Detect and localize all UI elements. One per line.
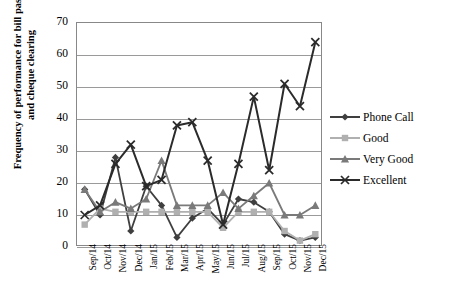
data-point-marker [158, 209, 164, 215]
legend-item-phone-call[interactable]: Phone Call [330, 106, 460, 127]
legend-swatch-square-icon [330, 132, 360, 144]
legend-label: Very Good [363, 153, 413, 165]
y-axis-tick-label: 10 [8, 208, 68, 220]
series-layer [77, 23, 323, 247]
x-axis-tick-label: Sep/15 [272, 244, 282, 296]
data-point-marker [341, 154, 349, 162]
legend-label: Good [363, 132, 389, 144]
data-point-marker [266, 209, 272, 215]
data-point-marker [127, 227, 134, 234]
x-axis-tick-label: Jul/15 [241, 244, 251, 296]
data-point-marker [341, 176, 349, 184]
y-axis-tick-label: 50 [8, 80, 68, 92]
series-line [85, 157, 316, 240]
y-axis-tick-label: 30 [8, 144, 68, 156]
data-point-marker [219, 189, 227, 197]
x-axis-tick-label: Oct/15 [288, 244, 298, 296]
data-point-marker [297, 237, 303, 243]
x-axis-tick-label: Apr/15 [195, 244, 205, 296]
data-point-marker [265, 179, 273, 187]
data-point-marker [281, 228, 287, 234]
data-point-marker [157, 157, 165, 165]
data-point-marker [112, 209, 118, 215]
x-axis-tick-label: Aug/15 [257, 244, 267, 296]
legend-swatch-cross-icon [330, 174, 360, 186]
data-point-marker [143, 209, 149, 215]
legend-label: Phone Call [363, 111, 414, 123]
y-axis-tick-label: 20 [8, 176, 68, 188]
legend-item-good[interactable]: Good [330, 127, 460, 148]
chart-legend: Phone CallGoodVery GoodExcellent [330, 106, 460, 190]
x-axis-tick-label: Feb/15 [165, 244, 175, 296]
data-point-marker [189, 209, 195, 215]
legend-swatch-triangle-icon [330, 153, 360, 165]
x-axis-tick-label: Nov/14 [118, 244, 128, 296]
data-point-marker [341, 113, 348, 120]
data-point-marker [311, 201, 319, 209]
data-point-marker [204, 209, 210, 215]
x-axis-tick-label: Nov/15 [303, 244, 313, 296]
x-axis-tick-labels: Sep/14Oct/14Nov/14Dec/14Jan/15Feb/15Mar/… [76, 248, 322, 300]
plot-area [76, 22, 322, 246]
data-point-marker [312, 231, 318, 237]
legend-swatch-diamond-icon [330, 111, 360, 123]
data-point-marker [81, 211, 89, 219]
x-axis-tick-label: Oct/14 [103, 244, 113, 296]
x-axis-tick-label: Mar/15 [180, 244, 190, 296]
x-axis-tick-label: Sep/14 [88, 244, 98, 296]
series-line [85, 161, 316, 215]
series-line [85, 42, 316, 224]
x-axis-tick-label: May/15 [211, 244, 221, 296]
data-point-marker [111, 198, 119, 206]
y-axis-tick-label: 40 [8, 112, 68, 124]
data-point-marker [342, 134, 348, 140]
chart-container: Frequency of performance for bill passin… [0, 0, 463, 300]
x-axis-tick-label: Dec/14 [134, 244, 144, 296]
y-axis-tick-label: 60 [8, 48, 68, 60]
data-point-marker [251, 209, 257, 215]
legend-item-very-good[interactable]: Very Good [330, 148, 460, 169]
y-axis-tick-label: 70 [8, 16, 68, 28]
legend-item-excellent[interactable]: Excellent [330, 169, 460, 190]
y-axis-tick-labels: 010203040506070 [0, 22, 72, 246]
x-axis-tick-label: Jun/15 [226, 244, 236, 296]
data-point-marker [81, 221, 87, 227]
y-axis-tick-label: 0 [8, 240, 68, 252]
x-axis-tick-label: Jan/15 [149, 244, 159, 296]
data-point-marker [174, 209, 180, 215]
legend-label: Excellent [363, 174, 406, 186]
x-axis-tick-label: Dec/15 [318, 244, 328, 296]
